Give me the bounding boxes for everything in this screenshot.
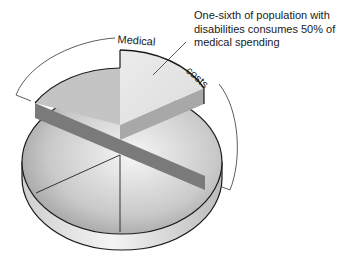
bracket-label-medical: Medical	[117, 33, 156, 48]
callout-line-1: One-sixth of population with	[194, 9, 343, 23]
callout-line-2: disabilities consumes 50% of	[194, 23, 343, 37]
callout-text: One-sixth of population with disabilitie…	[194, 9, 343, 50]
pie-diagram: One-sixth of population with disabilitie…	[0, 0, 343, 263]
callout-line-3: medical spending	[194, 36, 343, 50]
